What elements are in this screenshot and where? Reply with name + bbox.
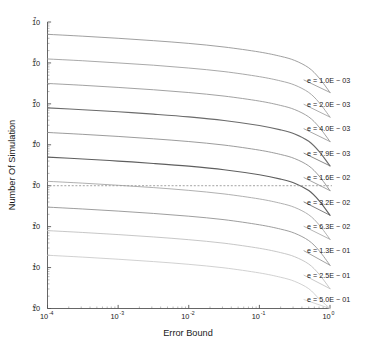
svg-text:-4: -4	[49, 310, 54, 316]
curve-series-5	[48, 157, 331, 215]
y-tick-label-7: 107	[32, 16, 40, 26]
series-label-0: e = 1.0E − 03	[307, 76, 350, 85]
curve-series-4	[48, 132, 331, 190]
svg-text:6: 6	[33, 57, 36, 63]
curve-series-3	[48, 108, 331, 166]
svg-text:-3: -3	[120, 310, 125, 316]
series-label-4: e = 1.6E − 02	[307, 173, 350, 182]
line-chart: e = 1.0E − 03e = 2.0E − 03e = 4.0E − 03e…	[0, 0, 382, 344]
curve-series-8	[48, 231, 331, 289]
svg-text:4: 4	[33, 139, 36, 145]
y-tick-label-3: 103	[32, 180, 40, 190]
svg-text:10: 10	[181, 312, 189, 321]
y-tick-label-6: 106	[32, 57, 40, 67]
curve-series-2	[48, 83, 331, 141]
y-tick-label-4: 104	[32, 139, 40, 149]
y-tick-label-1: 101	[32, 262, 40, 272]
x-tick-labels: 10-410-310-210-1100	[40, 310, 335, 320]
curve-series-7	[48, 207, 331, 265]
svg-text:10: 10	[111, 312, 119, 321]
svg-text:7: 7	[33, 16, 36, 22]
x-axis-title: Error Bound	[163, 328, 213, 338]
series-label-7: e = 1.3E − 01	[307, 246, 350, 255]
series-label-1: e = 2.0E − 03	[307, 100, 350, 109]
svg-text:0: 0	[33, 303, 36, 309]
svg-text:10: 10	[252, 312, 260, 321]
curve-series-1	[48, 59, 331, 117]
y-tick-label-5: 105	[32, 98, 40, 108]
svg-text:-2: -2	[190, 310, 195, 316]
series-label-8: e = 2.5E − 01	[307, 271, 350, 280]
chart-figure: e = 1.0E − 03e = 2.0E − 03e = 4.0E − 03e…	[0, 0, 382, 344]
svg-text:2: 2	[33, 221, 36, 227]
y-tick-labels: 100101102103104105106107	[32, 16, 40, 313]
x-tick-label-2: 10-2	[181, 310, 195, 320]
svg-text:-1: -1	[261, 310, 266, 316]
y-tick-label-0: 100	[32, 303, 40, 313]
major-tick-marks	[48, 22, 331, 309]
svg-text:5: 5	[33, 98, 36, 104]
series-label-5: e = 3.2E − 02	[307, 198, 350, 207]
series-label-6: e = 6.3E − 02	[307, 222, 350, 231]
svg-text:0: 0	[331, 310, 334, 316]
x-tick-label-3: 10-1	[252, 310, 266, 320]
x-tick-label-1: 10-3	[111, 310, 125, 320]
x-tick-label-4: 100	[322, 310, 334, 320]
series-label-9: e = 5.0E − 01	[307, 295, 350, 304]
x-tick-label-0: 10-4	[40, 310, 54, 320]
svg-text:3: 3	[33, 180, 36, 186]
series-label-2: e = 4.0E − 03	[307, 124, 350, 133]
series-label-3: e = 7.9E − 03	[307, 149, 350, 158]
curve-series-9	[48, 255, 331, 308]
svg-text:1: 1	[33, 262, 36, 268]
svg-text:10: 10	[322, 312, 330, 321]
y-tick-label-2: 102	[32, 221, 40, 231]
curve-series-0	[48, 34, 331, 92]
svg-text:10: 10	[40, 312, 48, 321]
data-curves	[48, 34, 331, 308]
y-axis-title: Number Of Simulation	[7, 120, 17, 210]
